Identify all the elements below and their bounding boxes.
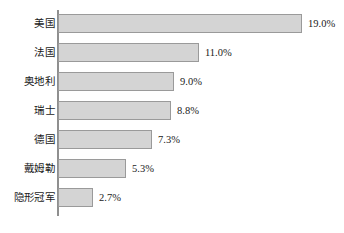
- category-label: 法国: [34, 43, 55, 62]
- category-label: 戴姆勒: [24, 159, 55, 178]
- category-label: 瑞士: [34, 101, 55, 120]
- value-label: 9.0%: [180, 72, 202, 91]
- value-label: 7.3%: [158, 130, 180, 149]
- bar: [58, 43, 199, 62]
- bar-row: 奥地利 9.0%: [0, 72, 344, 91]
- bar-row: 戴姆勒 5.3%: [0, 159, 344, 178]
- bar: [58, 188, 93, 207]
- value-label: 11.0%: [205, 43, 232, 62]
- value-label: 5.3%: [132, 159, 154, 178]
- category-label: 奥地利: [24, 72, 55, 91]
- bar: [58, 159, 126, 178]
- value-label: 8.8%: [177, 101, 199, 120]
- bar-row: 法国 11.0%: [0, 43, 344, 62]
- value-label: 2.7%: [99, 188, 121, 207]
- bar-row: 隐形冠军 2.7%: [0, 188, 344, 207]
- bar: [58, 101, 171, 120]
- category-label: 美国: [34, 14, 55, 33]
- category-label: 德国: [34, 130, 55, 149]
- category-label: 隐形冠军: [14, 188, 55, 207]
- value-label: 19.0%: [308, 14, 335, 33]
- bar: [58, 130, 152, 149]
- bar-row: 瑞士 8.8%: [0, 101, 344, 120]
- bar-row: 美国 19.0%: [0, 14, 344, 33]
- bar-row: 德国 7.3%: [0, 130, 344, 149]
- bar: [58, 72, 174, 91]
- plot-area: 美国 19.0% 法国 11.0% 奥地利 9.0% 瑞士 8.8% 德国 7.…: [0, 0, 344, 233]
- bar-chart: 美国 19.0% 法国 11.0% 奥地利 9.0% 瑞士 8.8% 德国 7.…: [0, 0, 344, 233]
- bar: [58, 14, 302, 33]
